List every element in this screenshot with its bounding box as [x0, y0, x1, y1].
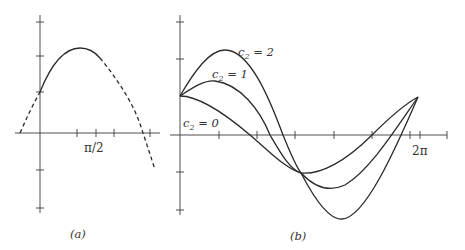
panel-a-curve-dashed-right [100, 58, 155, 170]
panel-a-curve-dashed-left [20, 92, 40, 133]
panel-a-caption: (a) [70, 227, 86, 241]
panel-b-x-label-2pi: 2π [412, 144, 428, 158]
panel-b-label-c2-2: c2 = 2 [238, 45, 274, 61]
panel-a: π/2 (a) [15, 15, 160, 241]
panel-a-curve-solid [40, 48, 100, 92]
panel-b-label-c2-1: c2 = 1 [212, 67, 248, 83]
panel-b: c2 = 2 c2 = 1 c2 = 0 2π (b) [170, 15, 447, 243]
figure-canvas: π/2 (a) c2 = 2 c2 [0, 0, 465, 250]
panel-b-caption: (b) [290, 229, 306, 243]
panel-b-label-c2-0: c2 = 0 [183, 116, 219, 132]
panel-a-x-label-pi-over-2: π/2 [84, 141, 104, 155]
